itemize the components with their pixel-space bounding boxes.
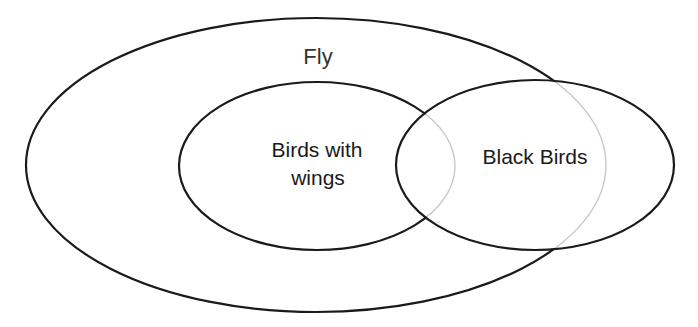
black-birds-label: Black Birds [482,145,587,168]
fly-label: Fly [303,44,332,69]
birds-with-wings-label-line-1: Birds with [271,138,362,161]
birds-with-wings-label-line-2: wings [290,166,345,189]
venn-diagram: Fly Birds with wings Black Birds [0,0,698,327]
